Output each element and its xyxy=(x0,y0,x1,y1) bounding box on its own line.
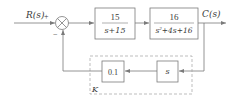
feedback-group-label: K xyxy=(91,85,99,94)
block2-denominator-rest: +4s+16 xyxy=(162,26,193,35)
feedback-block-s: s xyxy=(157,61,178,82)
block-gain-label: 0.1 xyxy=(108,68,118,77)
block-s-label: s xyxy=(165,67,169,76)
block-diagram: R(s) + − 15 s+15 16 s2+4s+16 C(s) K s xyxy=(0,0,243,101)
block1-denominator: s+15 xyxy=(105,26,126,35)
forward-block-1: 15 s+15 xyxy=(95,8,135,39)
input-label: R(s) xyxy=(25,10,45,20)
summing-junction xyxy=(56,17,69,30)
block2-numerator: 16 xyxy=(170,12,180,22)
forward-block-2: 16 s2+4s+16 xyxy=(150,8,198,39)
block2-denominator: s2+4s+16 xyxy=(155,26,192,35)
output-label: C(s) xyxy=(202,9,221,19)
plus-sign: + xyxy=(44,12,49,21)
block1-numerator: 15 xyxy=(111,12,121,22)
feedback-block-gain: 0.1 xyxy=(102,61,124,82)
minus-sign: − xyxy=(53,30,58,39)
